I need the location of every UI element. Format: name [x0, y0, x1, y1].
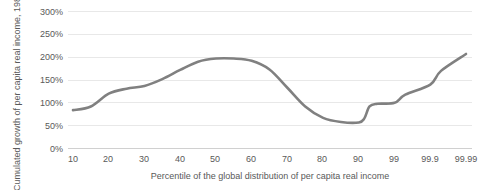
- x-tick-label: 60: [246, 154, 256, 164]
- x-tick-label: 80: [317, 154, 327, 164]
- x-tick-label: 99.99: [455, 154, 478, 164]
- x-tick-labels: 10 20 30 40 50 60 70 80 90 99 99.9 99.99: [68, 154, 477, 164]
- line-chart: 300% 250% 200% 150% 100% 50% 0% 10 20 30…: [0, 0, 478, 190]
- gridlines: [68, 12, 472, 149]
- y-tick-label: 0%: [50, 144, 63, 154]
- data-series-line: [73, 54, 466, 123]
- x-tick-label: 30: [139, 154, 149, 164]
- x-tick-label: 10: [68, 154, 78, 164]
- y-tick-label: 250%: [40, 29, 63, 39]
- y-tick-label: 100%: [40, 98, 63, 108]
- chart-container: 300% 250% 200% 150% 100% 50% 0% 10 20 30…: [0, 0, 478, 190]
- x-tick-label: 99.9: [421, 154, 439, 164]
- y-tick-label: 200%: [40, 52, 63, 62]
- y-tick-labels: 300% 250% 200% 150% 100% 50% 0%: [40, 7, 63, 154]
- y-axis-title: Cumulated growth of per capita real inco…: [12, 0, 22, 190]
- x-tick-label: 50: [210, 154, 220, 164]
- x-tick-label: 40: [175, 154, 185, 164]
- y-tick-label: 50%: [45, 121, 63, 131]
- x-tick-label: 20: [103, 154, 113, 164]
- x-tick-label: 90: [353, 154, 363, 164]
- x-axis-title: Percentile of the global distribution of…: [151, 171, 390, 181]
- x-tick-label: 99: [389, 154, 399, 164]
- x-tick-label: 70: [282, 154, 292, 164]
- y-tick-label: 300%: [40, 7, 63, 17]
- y-tick-label: 150%: [40, 75, 63, 85]
